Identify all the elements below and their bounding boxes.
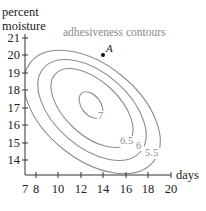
- y-axis-label: percent moisture: [2, 5, 46, 33]
- y-tick-21: 21: [0, 32, 20, 45]
- x-tick-8: 8: [26, 183, 46, 196]
- y-tick-17: 17: [0, 102, 20, 115]
- contour-6: [19, 40, 164, 180]
- chart-title: adhesiveness contours: [63, 27, 166, 39]
- contour-label-6-5: 6.5: [120, 136, 133, 147]
- point-a-label: A: [106, 43, 113, 54]
- point-a-marker: [101, 53, 105, 57]
- y-tick-16: 16: [0, 119, 20, 132]
- y-tick-20: 20: [0, 49, 20, 62]
- x-tick-20: 20: [161, 183, 181, 196]
- y-tick-19: 19: [0, 67, 20, 80]
- contour-label-7: 7: [98, 111, 103, 122]
- y-tick-14: 14: [0, 154, 20, 167]
- x-tick-18: 18: [138, 183, 158, 196]
- contour-5-5: [1, 26, 183, 198]
- y-axis-label-line1: percent: [2, 5, 46, 19]
- x-tick-14: 14: [93, 183, 113, 196]
- x-axis-label: days: [176, 169, 199, 182]
- contour-label-5-5: 5.5: [145, 148, 158, 159]
- y-tick-15: 15: [0, 137, 20, 150]
- y-tick-18: 18: [0, 84, 20, 97]
- x-tick-16: 16: [116, 183, 136, 196]
- contour-label-6: 6: [136, 141, 141, 152]
- x-tick-12: 12: [71, 183, 91, 196]
- x-tick-10: 10: [48, 183, 68, 196]
